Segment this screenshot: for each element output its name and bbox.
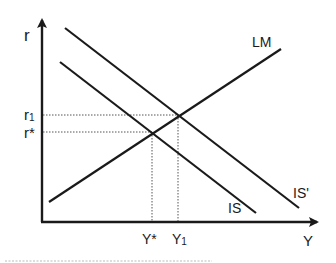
is-shifted-label: IS' [293, 185, 309, 201]
x-axis-label: Y [303, 232, 313, 249]
r1-label: r1 [24, 106, 35, 123]
lm-curve [49, 49, 281, 202]
is-lm-diagram: r Y LM IS IS' r1 r* Y* Y1 [0, 0, 336, 263]
r-star-label: r* [24, 124, 35, 141]
y1-label: Y1 [172, 231, 187, 247]
y-axis-label: r [24, 26, 30, 45]
is-label: IS [228, 200, 241, 216]
y-star-label: Y* [142, 231, 157, 247]
lm-label: LM [252, 34, 271, 50]
is-shifted-curve [65, 28, 299, 208]
